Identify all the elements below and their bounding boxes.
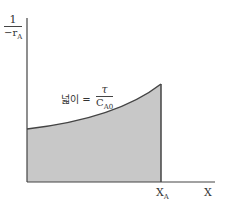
x-axis-label: X [204, 186, 212, 199]
diagram-canvas [0, 0, 232, 210]
area-prefix: 넓이 = [61, 94, 91, 105]
y-axis-label: 1 −rA [4, 14, 22, 43]
area-label: 넓이 = τ CA0 [61, 84, 113, 113]
xa-marker-label: XA [156, 186, 169, 201]
